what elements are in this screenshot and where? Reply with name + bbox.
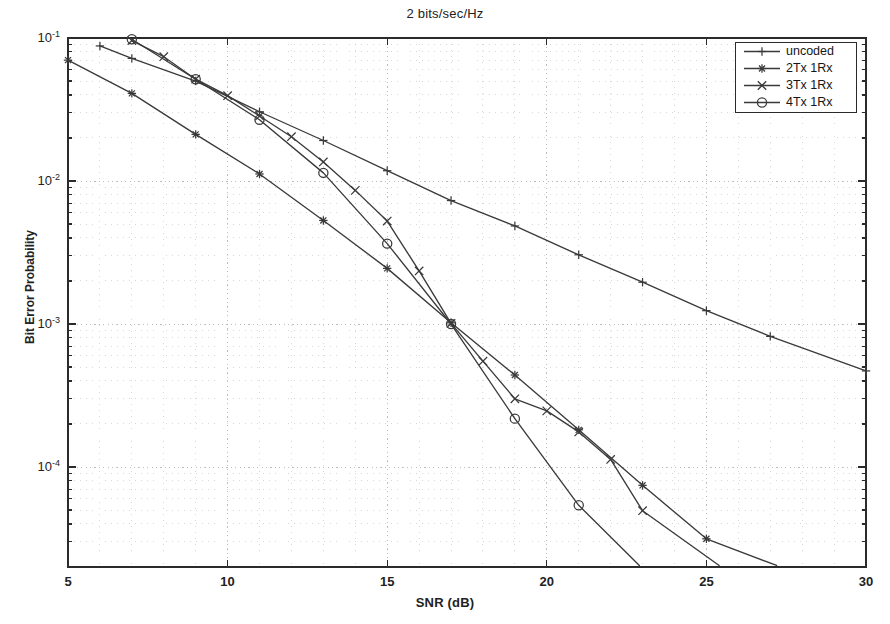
circle-marker-icon xyxy=(742,94,782,111)
legend-item-4tx-1rx[interactable]: 4Tx 1Rx xyxy=(736,94,856,111)
cross-marker-icon xyxy=(742,77,782,94)
grid-minor xyxy=(68,38,866,567)
y-tick-label: 10-1 xyxy=(8,29,60,45)
axis-ticks xyxy=(68,38,866,567)
legend-item-3tx-1rx[interactable]: 3Tx 1Rx xyxy=(736,77,856,94)
legend-item-uncoded[interactable]: uncoded xyxy=(736,43,856,60)
star-marker-icon xyxy=(742,60,782,77)
plus-marker-icon xyxy=(742,43,782,60)
legend-label: 3Tx 1Rx xyxy=(786,77,833,94)
series-3tx-1rx xyxy=(128,36,720,565)
x-tick-label: 30 xyxy=(846,574,886,589)
y-tick-label: 10-2 xyxy=(8,172,60,188)
legend-item-2tx-1rx[interactable]: 2Tx 1Rx xyxy=(736,60,856,77)
legend-label: 2Tx 1Rx xyxy=(786,60,833,77)
x-tick-label: 10 xyxy=(208,574,248,589)
series-4tx-1rx xyxy=(127,35,639,566)
x-tick-label: 20 xyxy=(527,574,567,589)
x-axis-label: SNR (dB) xyxy=(0,595,890,610)
x-tick-label: 15 xyxy=(367,574,407,589)
axis-frame xyxy=(68,38,866,567)
figure-canvas: 2 bits/sec/Hz 5101520253010-110-210-310-… xyxy=(0,0,890,624)
legend: uncoded2Tx 1Rx3Tx 1Rx4Tx 1Rx xyxy=(735,42,857,113)
x-tick-label: 5 xyxy=(48,574,88,589)
series-layer xyxy=(64,35,870,566)
x-tick-label: 25 xyxy=(686,574,726,589)
y-axis-label: Bit Error Probability xyxy=(23,187,37,387)
legend-label: 4Tx 1Rx xyxy=(786,94,833,111)
series-2tx-1rx xyxy=(64,56,777,566)
legend-label: uncoded xyxy=(786,43,834,60)
y-tick-label: 10-4 xyxy=(8,458,60,474)
